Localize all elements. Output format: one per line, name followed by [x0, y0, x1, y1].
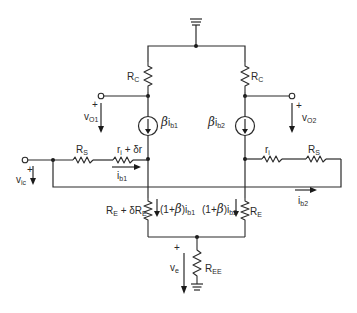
label-vo1-plus: + [92, 100, 98, 110]
label-re-left: RE + δRE [106, 206, 147, 217]
ri-left-resistor [113, 157, 133, 163]
vo2-terminal [289, 93, 295, 99]
label-ve-plus: + [174, 243, 180, 253]
label-rs-left: RS [76, 145, 88, 156]
top-rail-wire [148, 46, 245, 96]
ree-resistor [193, 237, 201, 284]
rs-left-resistor [73, 157, 93, 163]
label-re-right: RE [250, 207, 262, 218]
label-rs-right: RS [308, 145, 320, 156]
label-beta-ib1: βib1 [161, 116, 178, 129]
label-beta-ib2: βib2 [208, 116, 225, 129]
label-emitter-current-left: (1+β)ib1 [160, 203, 195, 216]
current-source-left-icon [139, 117, 158, 136]
label-ib2: ib2 [298, 196, 308, 207]
label-ree: REE [205, 264, 222, 275]
current-source-right-icon [236, 117, 255, 136]
label-ri-left: ri + δr [117, 145, 142, 156]
label-vic-plus: + [27, 165, 33, 175]
vo1-terminal [98, 93, 104, 99]
label-vo2-plus: + [296, 101, 302, 111]
top-ground-icon [190, 19, 202, 46]
label-ve: ve [170, 263, 179, 274]
label-vo2: vO2 [302, 113, 316, 124]
ri-right-resistor [262, 156, 282, 162]
label-rc-left: RC [127, 72, 139, 83]
label-ri-right: ri [265, 145, 270, 156]
bottom-ground-icon [191, 284, 203, 290]
label-vo1: vO1 [84, 112, 98, 123]
label-rc-right: RC [251, 72, 263, 83]
rs-right-resistor [306, 156, 326, 162]
common-loop-wire [53, 159, 341, 187]
vic-terminal [22, 157, 28, 163]
label-ib1: ib1 [117, 171, 127, 182]
label-vic: vic [16, 175, 26, 186]
label-emitter-current-right: (1+β)ib2 [202, 203, 237, 216]
